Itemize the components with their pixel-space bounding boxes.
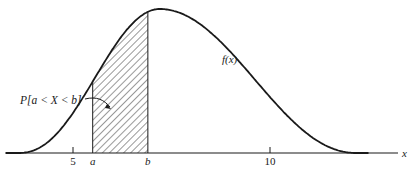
x-axis-label: x: [401, 147, 407, 159]
probability-label: P[a < X < b]: [19, 94, 82, 106]
bound-a-label: a: [90, 155, 96, 167]
shaded-probability-region: [93, 12, 148, 153]
density-curve: [6, 9, 369, 153]
density-diagram: x 510 f(x) P[a < X < b] a b: [0, 0, 410, 171]
tick-label-10: 10: [265, 155, 277, 167]
curve-label: f(x): [222, 53, 238, 66]
bound-b-label: b: [145, 155, 151, 167]
tick-label-5: 5: [70, 155, 76, 167]
